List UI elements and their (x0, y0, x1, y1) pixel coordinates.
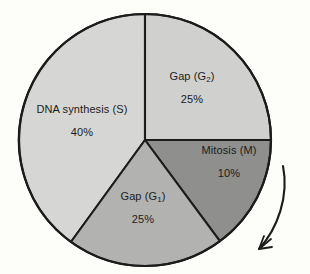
slice-value-dna-synthesis: 40% (20, 126, 144, 139)
cell-cycle-figure: Gap (G2) 25% DNA synthesis (S) 40% Mitos… (0, 0, 310, 274)
slice-label-gap-g1-text: Gap (G1) (98, 190, 188, 206)
slice-label-mitosis-text: Mitosis (M) (186, 144, 272, 160)
slice-label-dna-synthesis-text: DNA synthesis (S) (20, 103, 144, 119)
slice-label-mitosis: Mitosis (M) 10% (186, 144, 272, 180)
slice-value-gap-g2: 25% (149, 93, 235, 106)
slice-label-dna-synthesis: DNA synthesis (S) 40% (20, 103, 144, 139)
slice-label-gap-g2: Gap (G2) 25% (149, 70, 235, 106)
slice-label-gap-g1: Gap (G1) 25% (98, 190, 188, 226)
slice-value-gap-g1: 25% (98, 213, 188, 226)
slice-value-mitosis: 10% (186, 167, 272, 180)
slice-label-gap-g2-text: Gap (G2) (149, 70, 235, 86)
